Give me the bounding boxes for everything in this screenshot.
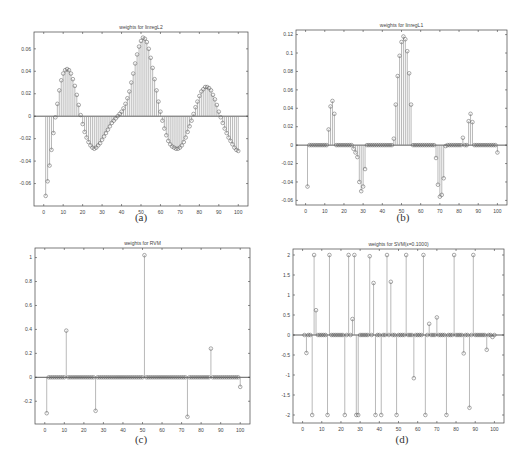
x-tick-label: 10: [60, 209, 66, 215]
y-tick-label: -1.5: [281, 392, 290, 398]
x-tick-label: 90: [218, 427, 224, 433]
x-tick-label: 50: [396, 426, 402, 432]
x-tick-label: 0: [42, 209, 45, 215]
stem-plot-b: weights for linregL101020304050607080901…: [264, 0, 527, 233]
chart-panel-c: weights for RVM0102030405060708090100-0.…: [0, 233, 264, 466]
y-tick-label: -0.02: [20, 135, 32, 141]
y-tick-label: 0: [287, 332, 290, 338]
y-tick-label: 0.4: [25, 326, 32, 332]
chart-panel-d: weights for SVM(ε=0.1000)010203040506070…: [264, 233, 527, 466]
x-tick-label: 60: [415, 426, 421, 432]
y-tick-label: 1.5: [283, 272, 290, 278]
y-tick-label: -0.06: [282, 197, 294, 203]
y-tick-label: -0.2: [23, 398, 32, 404]
x-tick-label: 40: [377, 426, 383, 432]
x-tick-label: 70: [434, 426, 440, 432]
y-tick-label: 1: [29, 254, 32, 260]
chart-title: weights for linregL1: [380, 22, 424, 28]
x-tick-label: 10: [62, 427, 68, 433]
y-tick-label: -2: [286, 412, 291, 418]
y-tick-label: 0.06: [21, 46, 31, 52]
chart-title: weights for linregL2: [119, 24, 163, 30]
x-tick-label: 30: [360, 208, 366, 214]
x-tick-label: 70: [179, 427, 185, 433]
caption-c: (c): [121, 433, 161, 445]
y-tick-label: 0.2: [25, 350, 32, 356]
stem-plot-c: weights for RVM0102030405060708090100-0.…: [0, 233, 264, 466]
y-tick-label: 0.04: [283, 105, 293, 111]
y-tick-label: 0.02: [283, 123, 293, 129]
x-tick-label: 20: [80, 209, 86, 215]
y-tick-label: -0.5: [281, 352, 290, 358]
y-tick-label: 0.5: [283, 312, 290, 318]
x-tick-label: 100: [493, 208, 502, 214]
x-tick-label: 100: [236, 427, 245, 433]
chart-panel-a: weights for linregL201020304050607080901…: [0, 0, 264, 233]
x-tick-label: 90: [472, 426, 478, 432]
x-tick-label: 20: [338, 426, 344, 432]
x-tick-label: 0: [301, 426, 304, 432]
y-tick-label: 0.02: [21, 90, 31, 96]
x-tick-label: 30: [357, 426, 363, 432]
x-tick-label: 30: [101, 427, 107, 433]
x-tick-label: 0: [43, 427, 46, 433]
y-tick-label: 0.6: [25, 302, 32, 308]
y-tick-label: -0.04: [20, 158, 32, 164]
x-tick-label: 20: [81, 427, 87, 433]
y-tick-label: 1: [287, 292, 290, 298]
y-tick-label: 0.08: [283, 68, 293, 74]
x-tick-label: 70: [177, 209, 183, 215]
chart-title: weights for SVM(ε=0.1000): [368, 241, 429, 247]
x-tick-label: 10: [319, 426, 325, 432]
y-tick-label: -0.06: [20, 180, 32, 186]
x-tick-label: 80: [456, 208, 462, 214]
y-tick-label: 0: [290, 142, 293, 148]
x-tick-label: 100: [234, 209, 243, 215]
chart-title: weights for RVM: [124, 240, 161, 246]
y-tick-label: 0.06: [283, 87, 293, 93]
x-tick-label: 20: [341, 208, 347, 214]
x-tick-label: 90: [216, 209, 222, 215]
x-tick-label: 80: [198, 427, 204, 433]
chart-panel-b: weights for linregL101020304050607080901…: [264, 0, 527, 233]
y-tick-label: -1: [286, 372, 291, 378]
y-tick-label: 0.04: [21, 68, 31, 74]
x-tick-label: 80: [453, 426, 459, 432]
caption-b: (b): [383, 211, 423, 223]
x-tick-label: 90: [475, 208, 481, 214]
y-tick-label: 2: [287, 252, 290, 258]
caption-d: (d): [382, 433, 422, 445]
x-tick-label: 80: [197, 209, 203, 215]
y-tick-label: 0.12: [283, 31, 293, 37]
x-tick-label: 10: [322, 208, 328, 214]
y-tick-label: -0.04: [282, 179, 294, 185]
y-tick-label: 0: [28, 113, 31, 119]
stem-plot-a: weights for linregL201020304050607080901…: [0, 0, 264, 233]
x-tick-label: 70: [437, 208, 443, 214]
x-tick-label: 30: [99, 209, 105, 215]
plot-frame: [293, 249, 504, 423]
plot-frame: [35, 248, 250, 424]
x-tick-label: 0: [304, 208, 307, 214]
y-tick-label: 0.1: [286, 50, 293, 56]
y-tick-label: 0.8: [25, 278, 32, 284]
stem-plot-d: weights for SVM(ε=0.1000)010203040506070…: [264, 233, 527, 466]
y-tick-label: -0.02: [282, 160, 294, 166]
y-tick-label: 0: [29, 374, 32, 380]
x-tick-label: 100: [490, 426, 499, 432]
caption-a: (a): [121, 211, 161, 223]
